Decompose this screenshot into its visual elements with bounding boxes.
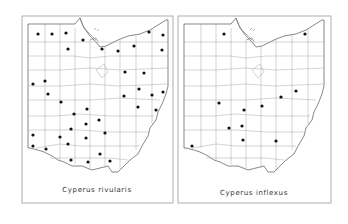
occurrence-dot bbox=[137, 87, 140, 90]
occurrence-dot bbox=[84, 122, 87, 125]
occurrence-dot bbox=[44, 147, 47, 150]
occurrence-dot bbox=[31, 144, 34, 147]
occurrence-dot bbox=[242, 108, 245, 111]
distribution-maps: Cyperus rivularis Cyperus inflexus bbox=[0, 0, 348, 224]
occurrence-dot bbox=[222, 32, 225, 35]
occurrence-dot bbox=[123, 70, 126, 73]
occurrence-dot bbox=[85, 107, 88, 110]
occurrence-dots bbox=[190, 32, 306, 147]
occurrence-dot bbox=[84, 136, 87, 139]
occurrence-dot bbox=[147, 30, 150, 33]
occurrence-dot bbox=[142, 71, 145, 74]
occurrence-dot bbox=[31, 82, 34, 85]
occurrence-dot bbox=[160, 48, 163, 51]
occurrence-dot bbox=[100, 47, 103, 50]
panel-title-left: Cyperus rivularis bbox=[62, 186, 131, 194]
occurrence-dot bbox=[86, 160, 89, 163]
occurrence-dot bbox=[69, 158, 72, 161]
occurrence-dot bbox=[66, 142, 69, 145]
occurrence-dot bbox=[66, 47, 69, 50]
occurrence-dot bbox=[136, 105, 139, 108]
occurrence-dot bbox=[59, 100, 62, 103]
occurrence-dot bbox=[103, 131, 106, 134]
occurrence-dot bbox=[108, 159, 111, 162]
occurrence-dot bbox=[50, 32, 53, 35]
occurrence-dots bbox=[31, 30, 164, 163]
occurrence-dot bbox=[46, 92, 49, 95]
occurrence-dot bbox=[43, 79, 46, 82]
occurrence-dot bbox=[303, 32, 306, 35]
occurrence-dot bbox=[260, 104, 263, 107]
occurrence-dot bbox=[279, 95, 282, 98]
occurrence-dot bbox=[122, 94, 125, 97]
occurrence-dot bbox=[31, 133, 34, 136]
occurrence-dot bbox=[64, 31, 67, 34]
panel-cyperus-inflexus: Cyperus inflexus bbox=[178, 16, 331, 203]
occurrence-dot bbox=[227, 126, 230, 129]
panel-title-right: Cyperus inflexus bbox=[220, 189, 288, 197]
occurrence-dot bbox=[98, 152, 101, 155]
occurrence-dot bbox=[116, 49, 119, 52]
occurrence-dot bbox=[190, 144, 193, 147]
occurrence-dot bbox=[97, 118, 100, 121]
occurrence-dot bbox=[161, 33, 164, 36]
occurrence-dot bbox=[274, 139, 277, 142]
occurrence-dot bbox=[69, 127, 72, 130]
occurrence-dot bbox=[58, 135, 61, 138]
occurrence-dot bbox=[217, 101, 220, 104]
occurrence-dot bbox=[240, 124, 243, 127]
occurrence-dot bbox=[36, 32, 39, 35]
occurrence-dot bbox=[132, 44, 135, 47]
occurrence-dot bbox=[294, 89, 297, 92]
occurrence-dot bbox=[241, 138, 244, 141]
panel-cyperus-rivularis: Cyperus rivularis bbox=[22, 16, 173, 203]
occurrence-dot bbox=[72, 112, 75, 115]
occurrence-dot bbox=[154, 108, 157, 111]
occurrence-dot bbox=[150, 93, 153, 96]
occurrence-dot bbox=[81, 38, 84, 41]
occurrence-dot bbox=[161, 90, 164, 93]
